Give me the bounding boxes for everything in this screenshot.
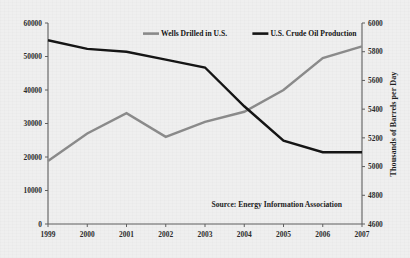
- axes-group: [48, 23, 362, 224]
- x-tick-label: 2006: [315, 230, 330, 239]
- source-annotation: Source: Energy Information Association: [212, 200, 343, 209]
- right-tick-label: 5600: [368, 76, 383, 85]
- left-tick-label: 40000: [24, 86, 43, 95]
- right-tick-label: 4800: [368, 191, 383, 200]
- x-tick-label: 2005: [276, 230, 291, 239]
- right-tick-label: 5400: [368, 105, 383, 114]
- x-axis-ticks: 199920002001200220032004200520062007: [41, 224, 370, 239]
- series-group: [48, 40, 362, 161]
- x-tick-label: 1999: [41, 230, 56, 239]
- right-tick-label: 5000: [368, 162, 383, 171]
- x-tick-label: 2004: [237, 230, 252, 239]
- chart-legend: Wells Drilled in U.S.U.S. Crude Oil Prod…: [143, 29, 357, 38]
- x-tick-label: 2002: [158, 230, 173, 239]
- right-tick-label: 5800: [368, 47, 383, 56]
- left-tick-label: 10000: [24, 186, 43, 195]
- x-tick-label: 2000: [80, 230, 95, 239]
- left-tick-label: 60000: [24, 19, 43, 28]
- legend-label-0: Wells Drilled in U.S.: [161, 29, 227, 38]
- x-tick-label: 2007: [355, 230, 370, 239]
- right-tick-label: 5200: [368, 134, 383, 143]
- right-tick-label: 6000: [368, 19, 383, 28]
- chart-container: 0100002000030000400005000060000 46004800…: [0, 0, 410, 258]
- left-tick-label: 30000: [24, 119, 43, 128]
- series-line-wells-drilled: [48, 46, 362, 161]
- left-tick-label: 0: [38, 220, 42, 229]
- series-line-crude-oil-production: [48, 40, 362, 152]
- line-chart: 0100002000030000400005000060000 46004800…: [0, 0, 410, 258]
- x-tick-label: 2003: [198, 230, 213, 239]
- left-axis-ticks: 0100002000030000400005000060000: [24, 19, 48, 229]
- left-tick-label: 50000: [24, 52, 43, 61]
- legend-label-1: U.S. Crude Oil Production: [270, 29, 357, 38]
- right-axis-title: Thousands of Barrels per Day: [389, 71, 398, 177]
- right-axis-ticks: 46004800500052005400560058006000: [362, 19, 383, 229]
- x-tick-label: 2001: [119, 230, 134, 239]
- left-tick-label: 20000: [24, 153, 43, 162]
- right-tick-label: 4600: [368, 220, 383, 229]
